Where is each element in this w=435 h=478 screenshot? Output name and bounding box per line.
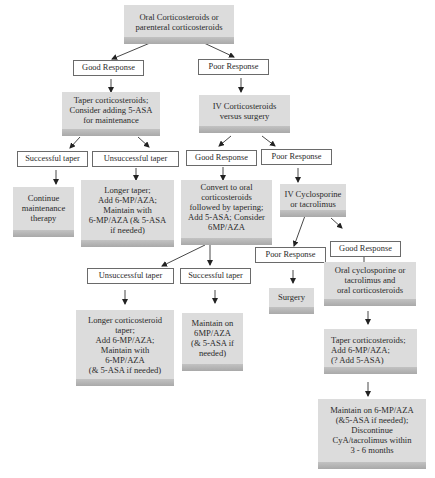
text-line: Add 5-ASA; Consider: [181, 212, 272, 222]
text-line: Add 6-MP/AZA;: [331, 345, 417, 355]
arrow-ivsteroid-good2: [219, 136, 231, 146]
node-surgery: Surgery: [269, 288, 314, 314]
node-iv-corticosteroids: IV Corticosteroids versus surgery: [199, 95, 290, 133]
arrow-taper1-succ1: [70, 137, 80, 148]
text-line: taper;: [76, 325, 174, 335]
text-line: Longer corticosteroid: [76, 315, 174, 325]
node-unsuccessful-taper-2: Unsuccessful taper: [87, 268, 174, 284]
text-line: Add 6-MP/AZA;: [81, 195, 174, 205]
text-line: CyA/tacrolimus within: [318, 435, 426, 445]
text-line: corticosteroids: [181, 192, 272, 202]
text-line: Taper corticosteroids;: [62, 95, 160, 105]
text-line: versus surgery: [199, 111, 290, 121]
text-line: Continue: [13, 193, 74, 203]
node-good-response-3: Good Response: [330, 241, 401, 257]
text-line: Discontinue: [318, 425, 426, 435]
node-oral-cyclosporine: Oral cyclosporine or tacrolimus and oral…: [324, 262, 416, 306]
text-line: Maintain on 6-MP/AZA: [318, 405, 426, 415]
text-line: Consider adding 5-ASA: [62, 105, 160, 115]
node-poor-response-3: Poor Response: [255, 247, 326, 263]
text-line: for maintenance: [62, 115, 160, 125]
text-line: Add 6-MP/AZA;: [76, 335, 174, 345]
node-iv-cyclosporine: IV Cyclosporine or tacrolimus: [280, 184, 346, 217]
text-line: 6MP/AZA: [182, 328, 243, 338]
node-successful-taper-1: Successful taper: [17, 151, 88, 167]
node-longer-corticosteroid-taper: Longer corticosteroid taper; Add 6-MP/AZ…: [76, 310, 174, 386]
node-start-line: Oral Corticosteroids or: [124, 12, 234, 22]
text-line: 3 - 6 months: [318, 445, 426, 455]
text-line: (? Add 5-ASA): [331, 355, 417, 365]
arrow-taper1-unsucc1: [138, 137, 149, 147]
arrow-start-poor1: [204, 43, 234, 57]
node-taper-corticosteroids-1: Taper corticosteroids; Consider adding 5…: [62, 92, 160, 136]
node-convert-oral: Convert to oral corticosteroids followed…: [181, 180, 272, 245]
text-line: needed): [182, 348, 243, 358]
arrow-ivsteroid-poor2: [262, 136, 275, 146]
node-maintain-6mp: Maintain on 6MP/AZA (& 5-ASA if needed): [182, 313, 243, 371]
text-line: (& 5-ASA if: [182, 338, 243, 348]
text-line: Convert to oral: [181, 182, 272, 192]
text-line: Taper corticosteroids;: [331, 335, 417, 345]
text-line: 6-MP/AZA: [76, 355, 174, 365]
text-line: 6-MP/AZA (& 5-ASA: [81, 215, 174, 225]
node-successful-taper-2: Successful taper: [180, 268, 251, 284]
text-line: Maintain with: [76, 345, 174, 355]
text-line: if needed): [81, 225, 174, 235]
node-start-line: parenteral corticosteroids: [124, 22, 234, 32]
text-line: Oral cyclosporine or: [324, 265, 416, 275]
text-line: IV Corticosteroids: [199, 101, 290, 111]
text-line: Maintain on: [182, 318, 243, 328]
text-line: or tacrolimus: [280, 199, 346, 209]
text-line: followed by tapering;: [181, 202, 272, 212]
node-unsuccessful-taper-1: Unsuccessful taper: [92, 151, 179, 167]
node-start: Oral Corticosteroids or parenteral corti…: [124, 5, 234, 44]
text-line: 6MP/AZA: [181, 222, 272, 232]
text-line: IV Cyclosporine: [280, 189, 346, 199]
text-line: Longer taper;: [81, 185, 174, 195]
text-line: oral corticosteroids: [324, 285, 416, 295]
node-final-maintenance: Maintain on 6-MP/AZA (&5-ASA if needed);…: [318, 399, 426, 469]
arrow-convert-unsucc2: [162, 245, 205, 266]
arrow-start-good1: [112, 43, 150, 59]
node-good-response-1: Good Response: [73, 60, 144, 76]
node-good-response-2: Good Response: [186, 150, 257, 166]
node-poor-response-2: Poor Response: [261, 149, 332, 165]
node-continue-maintenance: Continue maintenance therapy: [13, 187, 74, 237]
text-line: therapy: [13, 213, 74, 223]
arrow-ivcyclo-poor3: [294, 213, 306, 246]
text-line: (&5-ASA if needed);: [318, 415, 426, 425]
node-taper-corticosteroids-2: Taper corticosteroids; Add 6-MP/AZA; (? …: [324, 329, 417, 374]
text-line: tacrolimus and: [324, 275, 416, 285]
arrow-ivcyclo-good3: [331, 218, 342, 228]
text-line: maintenance: [13, 203, 74, 213]
text-line: (& 5-ASA if needed): [76, 365, 174, 375]
text-line: Maintain with: [81, 205, 174, 215]
node-longer-taper-1: Longer taper; Add 6-MP/AZA; Maintain wit…: [81, 180, 174, 247]
text-line: Surgery: [269, 292, 314, 302]
node-poor-response-1: Poor Response: [198, 59, 269, 75]
